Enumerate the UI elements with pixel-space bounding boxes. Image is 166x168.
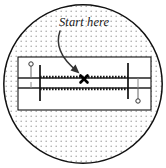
start-here-label: Start here (59, 15, 110, 29)
right-pin-circle-icon (136, 99, 140, 103)
workpiece-rectangle (18, 57, 151, 110)
detail-callout-figure: Start here (0, 0, 166, 168)
figure-stage: Start here (0, 0, 166, 168)
left-pin-circle-icon (29, 62, 33, 66)
